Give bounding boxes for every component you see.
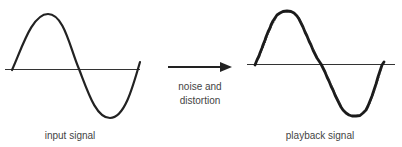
playback-signal-label: playback signal [272, 130, 368, 142]
diagram-graphics [0, 0, 402, 147]
playback-signal-waveform [255, 11, 384, 116]
noise-label-line1: noise and [168, 80, 232, 94]
signal-distortion-diagram: input signal noise and distortion playba… [0, 0, 402, 147]
input-signal-label: input signal [30, 130, 110, 142]
noise-label-line2: distortion [168, 94, 232, 108]
noise-distortion-label: noise and distortion [168, 80, 232, 108]
noise-arrow [168, 62, 232, 72]
input-signal-waveform [12, 14, 140, 118]
